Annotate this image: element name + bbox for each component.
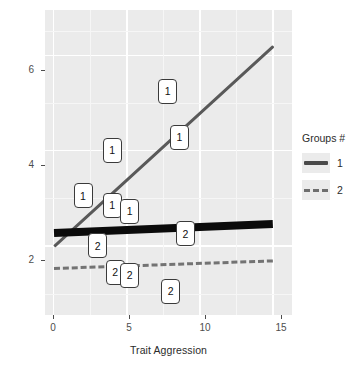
data-point-label-1: 1 <box>120 199 139 224</box>
x-tick-label-15: 15 <box>275 322 286 333</box>
legend-title: Groups # <box>302 132 364 144</box>
x-tick-label-0: 0 <box>50 322 56 333</box>
data-point-label-2: 2 <box>88 233 107 258</box>
chart-root: Counterproductive Workplace Behaviors 6 … <box>0 0 364 370</box>
x-tick-mark-15 <box>281 315 282 319</box>
gridline-v-minor-7.5 <box>163 10 164 315</box>
data-point-label-1: 1 <box>170 125 189 150</box>
gridline-h-6 <box>45 55 292 56</box>
data-point-label-2: 2 <box>161 279 180 304</box>
plot-panel: 11111122222 <box>45 10 292 315</box>
legend-label-2: 2 <box>337 184 343 196</box>
gridline-h-minor-6.5 <box>45 31 292 32</box>
gridline-v-minor-2.5 <box>90 10 91 315</box>
data-point-label-1: 1 <box>158 79 177 104</box>
legend-key-solid-line-icon <box>302 153 330 173</box>
x-tick-mark-10 <box>205 315 206 319</box>
gridline-h-4 <box>45 150 292 151</box>
x-tick-label-10: 10 <box>199 322 210 333</box>
legend-item-2[interactable]: 2 <box>302 180 364 200</box>
legend-key-dashed-line-icon <box>302 180 330 200</box>
data-point-label-1: 1 <box>103 193 122 218</box>
x-axis-title: Trait Aggression <box>45 344 292 356</box>
data-point-label-2: 2 <box>120 263 139 288</box>
data-point-label-1: 1 <box>74 183 93 208</box>
legend-item-1[interactable]: 1 <box>302 153 364 173</box>
x-tick-mark-5 <box>129 315 130 319</box>
data-point-label-1: 1 <box>103 138 122 163</box>
x-tick-label-5: 5 <box>126 322 132 333</box>
legend: Groups # 1 2 <box>302 132 364 207</box>
legend-label-1: 1 <box>337 157 343 169</box>
x-tick-mark-0 <box>53 315 54 319</box>
data-point-label-2: 2 <box>176 221 195 246</box>
gridline-h-2 <box>45 245 292 246</box>
gridline-v-minor-12.5 <box>236 10 237 315</box>
